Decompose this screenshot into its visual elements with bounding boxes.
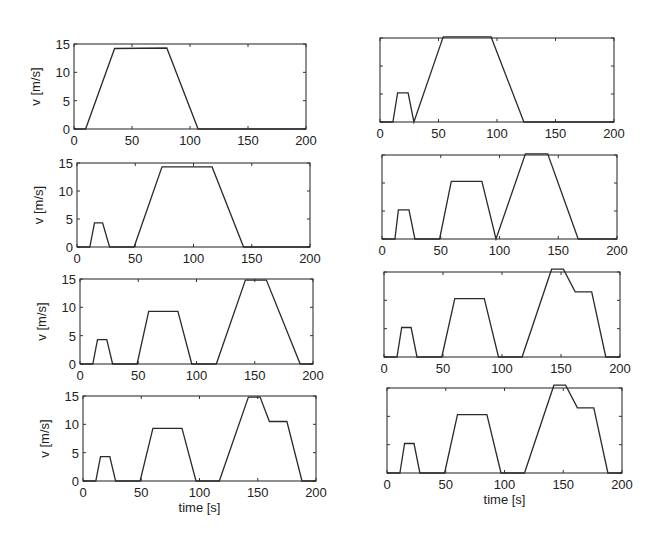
subplot-grid: 050100150200051015v [m/s]050100150200050… [0,0,662,541]
x-tick-label: 50 [125,133,139,148]
y-tick-label: 15 [62,272,76,287]
y-tick-label: 5 [69,329,76,344]
x-tick-label: 150 [244,368,266,383]
velocity-line [80,280,313,364]
y-axis-label: v [m/s] [34,302,49,340]
x-tick-label: 0 [79,485,86,500]
x-tick-label: 50 [134,485,148,500]
axes-box [80,279,313,364]
velocity-profile-figure: 050100150200051015v [m/s]050100150200050… [0,0,662,541]
x-tick-label: 100 [486,126,508,141]
x-tick-label: 100 [183,251,205,266]
y-tick-label: 15 [65,389,79,404]
subplot-row3-left: 050100150200051015v [m/s] [34,272,324,383]
subplot-row2-left: 050100150200051015v [m/s] [31,156,321,266]
subplot-row2-right: 050100150200 [378,154,627,258]
y-tick-label: 0 [72,474,79,489]
subplot-row1-right: 050100150200 [376,37,624,141]
velocity-line [380,37,614,122]
x-tick-label: 150 [545,126,567,141]
x-tick-label: 200 [299,251,321,266]
x-axis-label: time [s] [484,492,526,507]
x-tick-label: 200 [295,133,317,148]
x-tick-label: 150 [247,485,269,500]
x-tick-label: 100 [489,243,511,258]
x-tick-label: 50 [128,251,142,266]
axes-box [74,44,306,129]
y-tick-label: 15 [56,37,70,52]
velocity-line [387,385,622,473]
axes-box [382,155,617,239]
y-tick-label: 0 [69,357,76,372]
x-tick-label: 50 [131,368,145,383]
subplot-row1-left: 050100150200051015v [m/s] [28,37,317,148]
x-tick-label: 200 [302,368,324,383]
axes-box [83,396,316,481]
y-tick-label: 5 [66,212,73,227]
y-tick-label: 10 [59,184,73,199]
subplot-row4-left: 050100150200051015v [m/s]time [s] [37,389,327,515]
x-tick-label: 0 [76,368,83,383]
axes-box [384,272,620,357]
x-tick-label: 50 [434,243,448,258]
y-tick-label: 5 [63,94,70,109]
x-tick-label: 150 [237,133,259,148]
axes-box [77,163,310,247]
y-tick-label: 15 [59,156,73,171]
x-tick-label: 50 [436,361,450,376]
y-axis-label: v [m/s] [28,67,43,105]
velocity-line [77,167,310,247]
y-tick-label: 10 [62,300,76,315]
x-tick-label: 0 [378,243,385,258]
y-axis-label: v [m/s] [31,186,46,224]
velocity-line [382,154,617,239]
y-tick-label: 5 [72,446,79,461]
velocity-line [74,48,306,129]
x-tick-label: 200 [609,361,631,376]
x-tick-label: 0 [70,133,77,148]
x-tick-label: 150 [552,477,574,492]
subplot-row4-right: 050100150200time [s] [383,385,632,507]
velocity-line [384,269,620,357]
x-axis-label: time [s] [179,500,221,515]
x-tick-label: 50 [431,126,445,141]
y-tick-label: 10 [56,65,70,80]
velocity-line [83,397,316,481]
x-tick-label: 100 [491,361,513,376]
x-tick-label: 100 [186,368,208,383]
x-tick-label: 0 [376,126,383,141]
x-tick-label: 200 [305,485,327,500]
x-tick-label: 0 [383,477,390,492]
y-tick-label: 0 [63,122,70,137]
x-tick-label: 0 [73,251,80,266]
x-tick-label: 150 [547,243,569,258]
x-tick-label: 200 [603,126,625,141]
x-tick-label: 100 [494,477,516,492]
x-tick-label: 50 [439,477,453,492]
subplot-row3-right: 050100150200 [380,269,630,376]
x-tick-label: 200 [611,477,633,492]
y-tick-label: 10 [65,417,79,432]
y-axis-label: v [m/s] [37,419,52,457]
x-tick-label: 200 [606,243,628,258]
x-tick-label: 150 [241,251,263,266]
x-tick-label: 100 [189,485,211,500]
axes-box [387,388,622,473]
x-tick-label: 150 [550,361,572,376]
x-tick-label: 100 [179,133,201,148]
x-tick-label: 0 [380,361,387,376]
y-tick-label: 0 [66,240,73,255]
